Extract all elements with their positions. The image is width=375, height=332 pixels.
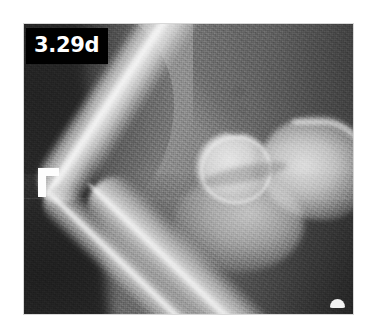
figure-root: 3.29d: [0, 0, 375, 332]
film-grain-coarse: [24, 24, 353, 314]
timestamp-label: 3.29d: [26, 28, 108, 64]
laterality-marker-icon: [38, 168, 59, 197]
radiograph-image: 3.29d: [24, 24, 353, 314]
edge-artifact-blob: [330, 299, 345, 308]
laterality-marker-vertical-bar: [38, 168, 46, 197]
